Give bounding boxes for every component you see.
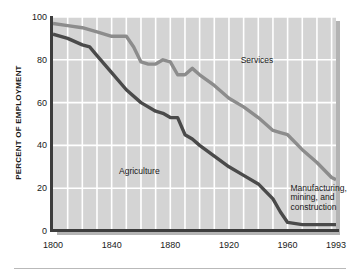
x-tick-label: 1880 — [150, 240, 190, 250]
y-tick-label: 80 — [21, 55, 47, 65]
y-axis-line — [50, 16, 53, 232]
chart-figure: PERCENT OF EMPLOYMENT 020406080100 18001… — [0, 0, 360, 275]
x-axis-line — [50, 229, 339, 232]
y-tick-label: 20 — [21, 183, 47, 193]
y-tick-label: 60 — [21, 98, 47, 108]
y-axis-title: PERCENT OF EMPLOYMENT — [14, 43, 23, 203]
series-annotation: Agriculture — [119, 167, 160, 177]
x-tick-label: 1800 — [33, 240, 73, 250]
horizontal-gridlines — [53, 17, 336, 188]
series-annotation: Services — [241, 56, 274, 66]
y-tick-label: 100 — [21, 12, 47, 22]
y-tick-label: 0 — [21, 226, 47, 236]
x-tick-label: 1960 — [268, 240, 308, 250]
series-line — [53, 23, 336, 179]
y-tick-label: 40 — [21, 140, 47, 150]
series-annotation: Manufacturing, mining, and construction — [291, 184, 347, 213]
x-tick-label: 1920 — [209, 240, 249, 250]
x-tick-label: 1993 — [316, 240, 356, 250]
bottom-divider-rule — [14, 268, 346, 269]
x-tick-label: 1840 — [92, 240, 132, 250]
